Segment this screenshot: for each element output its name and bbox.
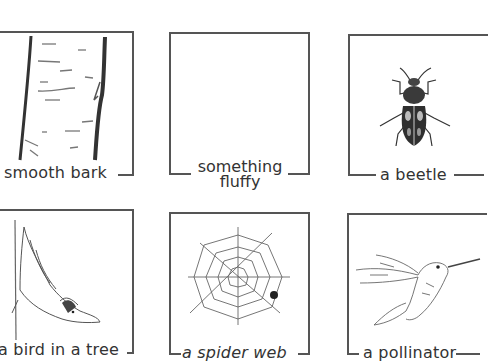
card-a-pollinator: a pollinator [330,195,480,364]
frame-bottom-line [454,174,484,176]
frame-bottom-line [169,173,191,175]
card-label: a bird in a tree [0,342,119,358]
card-a-bird-in-a-tree: a bird in a tree [0,195,160,364]
tree-trunk-bark-icon [0,0,160,180]
frame-bottom-line [348,174,376,176]
card-label: a pollinator [363,345,456,361]
card-label: a beetle [380,167,447,183]
card-something-fluffy: something fluffy [160,0,320,200]
nuthatch-bird-icon [0,195,160,355]
hummingbird-icon [330,195,480,355]
card-frame [169,32,310,175]
spider-web-icon [160,195,330,355]
card-a-spider-web: a spider web [160,195,330,364]
frame-bottom-line [288,173,310,175]
beetle-icon [330,0,480,160]
card-label: something fluffy [190,159,290,189]
card-smooth-bark: smooth bark [0,0,160,190]
card-label-line2: fluffy [190,174,290,189]
card-a-beetle: a beetle [330,0,480,200]
card-label: smooth bark [4,165,107,181]
card-label: a spider web [182,345,287,361]
